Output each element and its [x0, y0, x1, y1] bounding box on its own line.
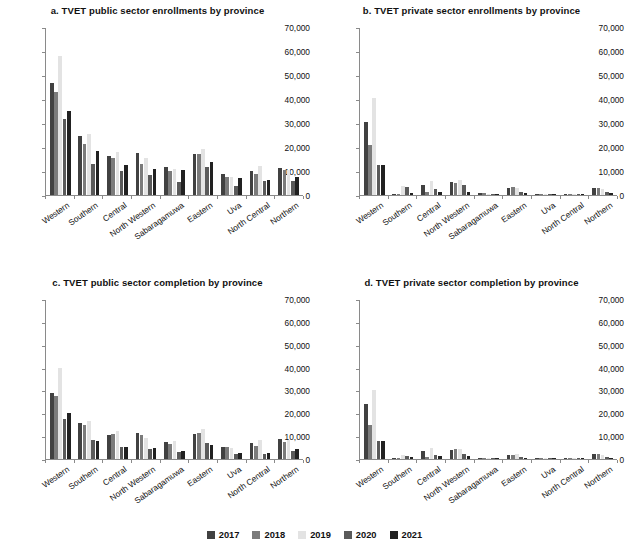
- bar: [221, 447, 225, 459]
- legend-item[interactable]: 2018: [252, 530, 285, 540]
- bar: [577, 194, 581, 195]
- bar: [144, 438, 148, 459]
- bar: [116, 431, 120, 459]
- bar: [544, 458, 548, 459]
- bar-group: [249, 300, 270, 459]
- bar: [111, 158, 115, 195]
- bar: [548, 458, 552, 459]
- bar: [592, 188, 596, 195]
- bar: [283, 170, 287, 195]
- bar: [201, 149, 205, 195]
- bar: [515, 188, 519, 195]
- x-axis-tick-mark: [445, 460, 446, 463]
- legend-item[interactable]: 2017: [207, 530, 240, 540]
- x-axis-tick-mark: [416, 196, 417, 199]
- bar: [278, 168, 282, 195]
- bar: [140, 164, 144, 195]
- bar: [491, 194, 495, 195]
- bar: [87, 421, 91, 459]
- bar-group: [192, 28, 213, 195]
- legend-item[interactable]: 2021: [390, 530, 423, 540]
- bar: [392, 458, 396, 459]
- bar-group: [278, 300, 299, 459]
- x-axis-tick-mark: [531, 460, 532, 463]
- chart-title-d: d. TVET private sector completion by pro…: [314, 277, 629, 288]
- x-axis-tick-mark: [131, 196, 132, 199]
- bar: [63, 119, 67, 195]
- bar-group: [50, 300, 71, 459]
- bar: [295, 449, 299, 459]
- bar: [254, 174, 258, 195]
- bar: [210, 445, 214, 459]
- bar: [609, 458, 613, 459]
- bar-group: [478, 28, 499, 195]
- x-axis-tick-mark: [445, 196, 446, 199]
- x-axis-tick-mark: [45, 196, 46, 199]
- bar: [410, 457, 414, 459]
- bar: [434, 455, 438, 459]
- bar: [124, 447, 128, 459]
- bar: [107, 156, 111, 195]
- bar: [197, 433, 201, 459]
- legend-label: 2020: [356, 530, 377, 540]
- legend-item[interactable]: 2019: [298, 530, 331, 540]
- bar-group: [421, 28, 442, 195]
- bar: [91, 440, 95, 459]
- bar: [491, 458, 495, 459]
- bar: [291, 181, 295, 195]
- bar: [454, 449, 458, 459]
- bar: [450, 182, 454, 195]
- legend-label: 2021: [402, 530, 423, 540]
- bar: [177, 182, 181, 195]
- bar: [482, 458, 486, 459]
- legend-item[interactable]: 2020: [344, 530, 377, 540]
- x-axis-tick-mark: [588, 460, 589, 463]
- x-axis-tick-mark: [217, 196, 218, 199]
- bar: [581, 458, 585, 459]
- x-axis-tick-mark: [246, 196, 247, 199]
- bar: [78, 423, 82, 459]
- bar: [263, 181, 267, 195]
- bar-group: [78, 28, 99, 195]
- x-axis-tick-mark: [274, 460, 275, 463]
- bar: [283, 442, 287, 459]
- x-axis-tick-mark: [217, 460, 218, 463]
- bar-groups: [46, 28, 303, 195]
- bar: [368, 145, 372, 195]
- legend-swatch-icon: [298, 531, 306, 539]
- bar: [168, 444, 172, 459]
- bar-group: [164, 300, 185, 459]
- x-axis-tick-mark: [588, 196, 589, 199]
- bar: [140, 435, 144, 459]
- bar-group: [135, 28, 156, 195]
- legend-swatch-icon: [252, 531, 260, 539]
- bar: [381, 441, 385, 459]
- bar: [291, 451, 295, 459]
- bar: [120, 447, 124, 459]
- bar: [548, 194, 552, 195]
- chart-panel-d: d. TVET private sector completion by pro…: [314, 272, 629, 520]
- bar: [425, 192, 429, 195]
- bar: [524, 193, 528, 195]
- bar: [564, 194, 568, 195]
- bar: [67, 413, 71, 459]
- bar: [539, 458, 543, 459]
- plot-frame: [45, 300, 303, 460]
- bar: [478, 193, 482, 195]
- x-axis-tick-mark: [388, 196, 389, 199]
- x-axis-tick-mark: [188, 196, 189, 199]
- bar: [478, 458, 482, 459]
- bar: [58, 56, 62, 195]
- bar: [164, 442, 168, 459]
- bar-group: [50, 28, 71, 195]
- bar: [205, 443, 209, 459]
- bar: [287, 170, 291, 195]
- bar: [54, 396, 58, 459]
- legend-label: 2019: [310, 530, 331, 540]
- x-axis-tick-mark: [531, 196, 532, 199]
- chart-legend: 20172018201920202021: [0, 528, 629, 542]
- bar: [197, 154, 201, 195]
- bar: [96, 151, 100, 195]
- bar: [83, 425, 87, 459]
- x-axis-tick-mark: [474, 460, 475, 463]
